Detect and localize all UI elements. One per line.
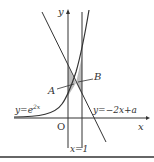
curve-label: y=e2x xyxy=(14,103,41,115)
y-axis-arrow-icon xyxy=(66,9,70,14)
vertical-line-label: x=1 xyxy=(70,144,88,154)
point-b-label: B xyxy=(93,71,101,82)
x-axis-label: x xyxy=(138,121,144,132)
curve-label-base: y=e xyxy=(14,105,33,115)
origin-label: O xyxy=(57,121,65,132)
y-axis-label: y xyxy=(57,6,64,17)
x-axis-arrow-icon xyxy=(146,116,150,120)
exponential-curve xyxy=(14,10,89,117)
curve-label-exponent: 2x xyxy=(32,103,41,110)
graph-svg: y x O A B y=e2x y=−2x+a x=1 xyxy=(0,0,154,162)
graph-diagram: y x O A B y=e2x y=−2x+a x=1 xyxy=(0,0,154,162)
point-a-label: A xyxy=(47,85,55,96)
line-label: y=−2x+a xyxy=(92,105,137,115)
